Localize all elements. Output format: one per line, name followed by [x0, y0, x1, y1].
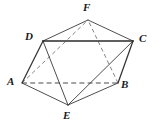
edge-C-E [68, 41, 133, 105]
vertex-label-A: A [7, 76, 14, 87]
edge-A-D [22, 41, 43, 83]
vertex-label-D: D [25, 31, 33, 42]
edge-D-E [43, 41, 68, 105]
edge-B-C [118, 41, 133, 83]
vertex-label-E: E [63, 110, 70, 121]
edge-B-E [68, 83, 118, 105]
figure-canvas [0, 0, 159, 126]
vertex-label-B: B [121, 79, 128, 90]
vertex-label-F: F [83, 2, 90, 13]
vertex-label-C: C [139, 33, 146, 44]
edge-D-F [43, 20, 88, 41]
geometry-figure: F D C A B E [0, 0, 159, 126]
edge-C-F [88, 20, 133, 41]
edge-B-F [88, 20, 118, 83]
